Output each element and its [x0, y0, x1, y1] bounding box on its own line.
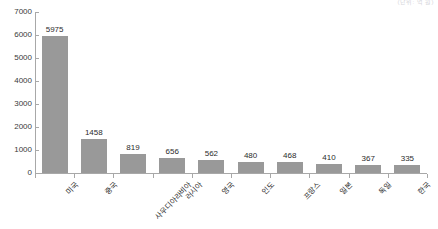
y-tick-mark: [35, 150, 39, 151]
bar: [159, 158, 185, 173]
y-axis-tick-label: 2000: [14, 123, 32, 131]
y-axis-tick-label: 7000: [14, 8, 32, 16]
x-tick-mark: [192, 174, 193, 178]
x-tick-mark: [388, 174, 389, 178]
x-tick-mark: [309, 174, 310, 178]
y-tick-mark: [35, 12, 39, 13]
bar: [120, 154, 146, 173]
y-tick-label-wrap: 6000: [0, 31, 32, 39]
x-tick-mark: [74, 174, 75, 178]
bar-value-label: 819: [113, 143, 153, 152]
bar-value-label: 367: [348, 154, 388, 163]
x-axis-category-label: 프랑스: [300, 179, 323, 202]
y-tick-label-wrap: 5000: [0, 54, 32, 62]
x-tick-mark: [270, 174, 271, 178]
y-tick-label-wrap: 1000: [0, 146, 32, 154]
x-axis-category-label: 영국: [219, 179, 237, 197]
bar-value-label: 480: [231, 151, 271, 160]
y-tick-label-wrap: 7000: [0, 8, 32, 16]
x-axis-category-label: 사우디아라비아: [151, 179, 193, 221]
y-tick-mark: [35, 58, 39, 59]
x-axis-category-label: 인도: [259, 179, 277, 197]
bar: [277, 162, 303, 173]
x-tick-mark: [113, 174, 114, 178]
x-axis-category-label: 미국: [63, 179, 81, 197]
bar: [355, 165, 381, 173]
bar: [42, 36, 68, 173]
y-tick-mark: [35, 81, 39, 82]
bar-value-label: 468: [270, 151, 310, 160]
y-tick-mark: [35, 127, 39, 128]
x-axis-category-label: 중국: [102, 179, 120, 197]
y-axis-tick-label: 6000: [14, 31, 32, 39]
y-tick-label-wrap: 4000: [0, 77, 32, 85]
bar-value-label: 5975: [35, 25, 75, 34]
y-axis-tick-label: 4000: [14, 77, 32, 85]
y-tick-label-wrap: 3000: [0, 100, 32, 108]
bar: [238, 162, 264, 173]
bar: [198, 160, 224, 173]
y-tick-mark: [35, 104, 39, 105]
x-tick-mark: [349, 174, 350, 178]
bar-chart: (단위: 억 원) 01000200030004000500060007000 …: [0, 0, 438, 229]
bar-value-label: 410: [309, 153, 349, 162]
x-tick-mark: [153, 174, 154, 178]
bar-value-label: 656: [152, 147, 192, 156]
y-axis-tick-label: 1000: [14, 146, 32, 154]
chart-unit-caption: (단위: 억 원): [397, 0, 434, 6]
y-tick-label-wrap: 2000: [0, 123, 32, 131]
bar-value-label: 1458: [74, 128, 114, 137]
x-axis-category-label: 일본: [337, 179, 355, 197]
bar-value-label: 562: [191, 149, 231, 158]
bar: [81, 139, 107, 173]
y-axis-tick-label: 0: [28, 169, 32, 177]
y-axis-tick-label: 3000: [14, 100, 32, 108]
bar: [316, 164, 342, 173]
y-tick-mark: [35, 35, 39, 36]
x-axis-category-label: 한국: [415, 179, 433, 197]
y-axis-tick-label: 5000: [14, 54, 32, 62]
bar: [394, 165, 420, 173]
bar-value-label: 335: [387, 154, 427, 163]
x-tick-mark: [231, 174, 232, 178]
y-tick-label-wrap: 0: [0, 169, 32, 177]
x-tick-mark: [35, 174, 36, 178]
x-tick-mark: [427, 174, 428, 178]
x-axis-category-label: 독일: [376, 179, 394, 197]
